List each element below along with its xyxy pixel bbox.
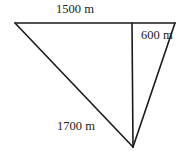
label-right-side: 600 m	[141, 28, 173, 42]
vertical-line	[132, 23, 133, 147]
label-top-side: 1500 m	[56, 2, 94, 16]
label-left-side: 1700 m	[57, 119, 95, 133]
triangle-diagram: 1500 m 600 m 1700 m	[0, 0, 184, 154]
